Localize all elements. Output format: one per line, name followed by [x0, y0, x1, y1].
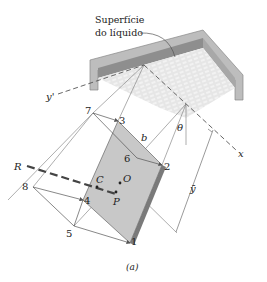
submerged-plate-diagram: Superfície do líquido y' x	[0, 0, 267, 282]
surface-label-line1: Superfície	[95, 14, 145, 25]
angle-label: θ	[177, 122, 183, 133]
resultant-label: R	[13, 161, 22, 172]
y-prime-label: y'	[45, 91, 54, 102]
pressure-center-label: P	[112, 196, 120, 207]
origin-label: O	[123, 173, 131, 184]
point-1-label: 1	[131, 236, 137, 247]
surface-label-line2: do líquido	[95, 27, 143, 38]
point-6-label: 6	[124, 153, 130, 164]
depth-label: ȳ	[189, 183, 196, 194]
point-5-label: 5	[66, 228, 72, 239]
centroid-label: C	[96, 174, 104, 185]
dimension-b-label: b	[141, 132, 147, 143]
tank	[90, 30, 243, 118]
pressure-center-dot	[115, 191, 118, 194]
point-2-label: 2	[164, 161, 170, 172]
origin-dot	[119, 182, 122, 185]
point-4-label: 4	[84, 195, 90, 206]
point-3-label: 3	[119, 115, 125, 126]
point-8-label: 8	[22, 181, 28, 192]
figure-caption: (a)	[126, 262, 139, 272]
point-7-label: 7	[85, 105, 91, 116]
centroid-dot	[96, 186, 99, 189]
depth-dimension	[176, 129, 213, 232]
x-label: x	[238, 148, 244, 159]
